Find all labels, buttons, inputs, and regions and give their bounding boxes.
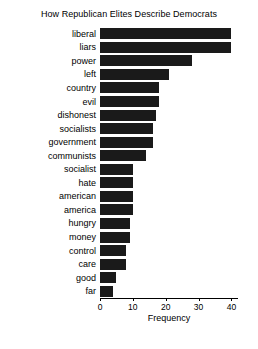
bar <box>100 69 169 80</box>
y-axis-tick-label-text: control <box>69 246 96 256</box>
y-axis-tick-label: dishonest <box>0 108 96 122</box>
bar <box>100 204 133 215</box>
bar-row <box>100 176 238 190</box>
bar-row <box>100 41 238 55</box>
y-axis-tick-label: socialists <box>0 122 96 136</box>
y-axis-tick-label-text: hungry <box>68 218 96 228</box>
bar-row <box>100 54 238 68</box>
bar <box>100 259 126 270</box>
y-axis-tick-label-text: dishonest <box>57 110 96 120</box>
y-axis-tick-label-text: power <box>71 56 96 66</box>
bar <box>100 191 133 202</box>
x-axis-tick-label: 0 <box>98 302 103 312</box>
x-axis-tick <box>199 298 200 301</box>
x-axis-line <box>100 298 238 299</box>
bar-row <box>100 257 238 271</box>
bar <box>100 110 156 121</box>
chart-title: How Republican Elites Describe Democrats <box>0 9 258 20</box>
bar-row <box>100 217 238 231</box>
bar-row <box>100 122 238 136</box>
bar <box>100 272 116 283</box>
bar-chart-figure: How Republican Elites Describe Democrats… <box>0 0 258 349</box>
bar-row <box>100 95 238 109</box>
y-axis-tick-label-text: government <box>48 137 96 147</box>
x-axis-tick-label: 20 <box>161 302 170 312</box>
y-axis-tick-label-text: good <box>76 273 96 283</box>
bar <box>100 286 113 297</box>
x-axis-tick <box>133 298 134 301</box>
y-axis-tick-label: government <box>0 135 96 149</box>
y-axis-tick-label: care <box>0 257 96 271</box>
y-axis-tick-label: country <box>0 81 96 95</box>
bar <box>100 96 159 107</box>
y-axis-tick-label: hungry <box>0 217 96 231</box>
bar <box>100 55 192 66</box>
y-axis-tick-label: america <box>0 203 96 217</box>
x-axis-tick-label: 40 <box>227 302 236 312</box>
y-axis-tick-label-text: money <box>69 232 96 242</box>
y-axis-tick-label-text: socialist <box>64 164 96 174</box>
y-axis-tick-label: liberal <box>0 27 96 41</box>
x-axis-tick-label: 30 <box>194 302 203 312</box>
y-axis-tick-label-text: country <box>66 83 96 93</box>
y-axis-tick-label: hate <box>0 176 96 190</box>
bar <box>100 28 231 39</box>
y-axis-tick-label: evil <box>0 95 96 109</box>
bar <box>100 232 130 243</box>
y-axis-tick-label: left <box>0 68 96 82</box>
y-axis-tick-label-text: liars <box>79 42 96 52</box>
bar <box>100 150 146 161</box>
bar-row <box>100 271 238 285</box>
bar <box>100 137 153 148</box>
y-axis-tick-label: good <box>0 271 96 285</box>
bar <box>100 177 133 188</box>
y-axis-tick-label-text: liberal <box>72 29 96 39</box>
bar-row <box>100 149 238 163</box>
bar <box>100 164 133 175</box>
bar-row <box>100 108 238 122</box>
bar <box>100 42 231 53</box>
bar <box>100 218 130 229</box>
y-axis-tick-label: socialist <box>0 162 96 176</box>
y-axis-tick-label-text: american <box>59 191 96 201</box>
x-axis-tick <box>100 298 101 301</box>
y-axis-tick-label: money <box>0 230 96 244</box>
bar-row <box>100 68 238 82</box>
x-axis-title: Frequency <box>100 313 238 324</box>
y-axis-tick-label: control <box>0 244 96 258</box>
y-axis-tick-label-text: left <box>84 69 96 79</box>
y-axis-tick-label: american <box>0 190 96 204</box>
bar-row <box>100 81 238 95</box>
bar-row <box>100 203 238 217</box>
bar-row <box>100 190 238 204</box>
y-axis-tick-label-text: communists <box>48 151 96 161</box>
y-axis-tick-label-text: america <box>64 205 96 215</box>
y-axis-tick-label-text: socialists <box>59 124 96 134</box>
bar <box>100 245 126 256</box>
y-axis-tick-label-text: far <box>85 286 96 296</box>
bar <box>100 123 153 134</box>
x-axis-tick <box>231 298 232 301</box>
bar-row <box>100 27 238 41</box>
y-axis-tick-label-text: hate <box>78 178 96 188</box>
bar-row <box>100 284 238 298</box>
bar-row <box>100 162 238 176</box>
bar <box>100 82 159 93</box>
plot-area <box>100 27 238 298</box>
bar-row <box>100 230 238 244</box>
y-axis-tick-label: power <box>0 54 96 68</box>
y-axis-tick-label-text: care <box>78 259 96 269</box>
bar-row <box>100 244 238 258</box>
y-axis-tick-label: communists <box>0 149 96 163</box>
y-axis-tick-label: liars <box>0 41 96 55</box>
y-axis-tick-label: far <box>0 284 96 298</box>
y-axis-tick-labels: liberalliarspowerleftcountryevildishones… <box>0 27 96 298</box>
y-axis-tick-label-text: evil <box>82 97 96 107</box>
x-axis-tick-label: 10 <box>128 302 137 312</box>
x-axis-tick <box>166 298 167 301</box>
bar-row <box>100 135 238 149</box>
